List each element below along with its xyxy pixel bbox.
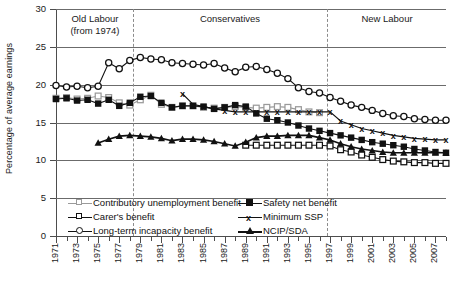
- data-point: x: [433, 135, 438, 145]
- data-point: [95, 100, 101, 106]
- data-point: [74, 83, 80, 89]
- data-point: [169, 104, 175, 110]
- data-point: x: [201, 102, 206, 112]
- data-point: [137, 54, 143, 60]
- data-point: x: [401, 132, 406, 142]
- data-point: [390, 158, 396, 164]
- data-point: [116, 103, 122, 109]
- legend-item-carers-benefit: Carer's benefit: [68, 211, 154, 223]
- data-point: [306, 88, 312, 94]
- data-point: [95, 93, 101, 99]
- data-point: [84, 97, 90, 103]
- data-point: [359, 104, 365, 110]
- data-point: [348, 134, 354, 140]
- legend-label: Safety net benefit: [262, 198, 337, 208]
- data-point: [53, 96, 59, 102]
- data-point: x: [222, 106, 227, 116]
- legend-label: Long-term incapacity benefit: [92, 226, 212, 236]
- series-safety-net-benefit: [53, 93, 449, 156]
- series-line: [56, 96, 446, 153]
- data-point: x: [233, 107, 238, 117]
- data-point: [274, 70, 280, 76]
- data-point: [232, 69, 238, 75]
- data-point: x: [391, 131, 396, 141]
- data-point: [158, 57, 164, 63]
- data-point: [401, 159, 407, 165]
- series-long-term-incapacity-benefit: [53, 54, 449, 123]
- data-point: [95, 83, 101, 89]
- data-point: [274, 142, 280, 148]
- data-point: [380, 110, 386, 116]
- data-point: [316, 128, 322, 134]
- data-point: [369, 139, 375, 145]
- data-point: x: [317, 107, 322, 117]
- data-point: [433, 160, 439, 166]
- data-point: [306, 142, 312, 148]
- data-point: [253, 63, 259, 69]
- data-point: x: [359, 124, 364, 134]
- legend-swatch-x-icon: x: [238, 211, 262, 223]
- data-point: [106, 97, 112, 103]
- data-point: x: [296, 107, 301, 117]
- data-point: x: [349, 120, 354, 130]
- data-point: [106, 60, 112, 66]
- data-point: [369, 154, 375, 160]
- data-point: [401, 144, 407, 150]
- data-point: x: [212, 104, 217, 114]
- data-point: [295, 85, 301, 91]
- legend-label: NCIP/SDA: [262, 226, 308, 236]
- legend-swatch-square-open-grey-icon: [68, 197, 92, 209]
- legend-swatch-circle-open-icon: [68, 225, 92, 237]
- data-point: [390, 142, 396, 148]
- data-point: x: [328, 107, 333, 117]
- data-point: [317, 142, 323, 148]
- data-point: [200, 62, 206, 68]
- legend-item-safety-net-benefit: Safety net benefit: [238, 197, 337, 209]
- data-point: x: [180, 89, 185, 99]
- data-point: x: [191, 100, 196, 110]
- data-point: [285, 76, 291, 82]
- data-point: [211, 60, 217, 66]
- data-point: [190, 61, 196, 67]
- data-point: [422, 116, 428, 122]
- legend-item-contributory-unemployment-benefit: Contributory unemployment benefit: [68, 197, 241, 209]
- data-point: [337, 98, 343, 104]
- data-point: [348, 102, 354, 108]
- data-point: [264, 142, 270, 148]
- data-point: [422, 160, 428, 166]
- data-point: x: [306, 107, 311, 117]
- data-point: [358, 137, 364, 143]
- data-point: [53, 82, 59, 88]
- legend-label: Minimum SSP: [262, 212, 323, 222]
- data-point: [285, 142, 291, 148]
- chart-figure: Percentage of average earnings 302520151…: [0, 0, 452, 286]
- data-point: x: [443, 135, 448, 145]
- data-point: [380, 157, 386, 163]
- data-point: x: [370, 126, 375, 136]
- data-point: x: [380, 128, 385, 138]
- legend-item-minimum-ssp: x Minimum SSP: [238, 211, 323, 223]
- legend-label: Carer's benefit: [92, 212, 154, 222]
- data-point: [179, 103, 185, 109]
- legend-swatch-square-open-icon: [68, 211, 92, 223]
- data-point: [401, 113, 407, 119]
- data-point: x: [264, 107, 269, 117]
- legend-item-long-term-incapacity-benefit: Long-term incapacity benefit: [68, 225, 212, 237]
- data-point: [63, 95, 69, 101]
- data-point: [264, 66, 270, 72]
- legend-item-ncip-sda: NCIP/SDA: [238, 225, 308, 237]
- data-point: [148, 93, 154, 99]
- data-point: [158, 100, 164, 106]
- data-point: [443, 160, 449, 166]
- data-point: [127, 57, 133, 63]
- data-point: x: [285, 107, 290, 117]
- data-point: [306, 125, 312, 131]
- legend-swatch-square-filled-icon: [238, 197, 262, 209]
- data-point: [296, 142, 302, 148]
- data-point: [285, 119, 291, 125]
- data-point: [137, 94, 143, 100]
- data-point: x: [422, 134, 427, 144]
- data-point: [369, 107, 375, 113]
- data-point: x: [275, 107, 280, 117]
- data-point: x: [412, 134, 417, 144]
